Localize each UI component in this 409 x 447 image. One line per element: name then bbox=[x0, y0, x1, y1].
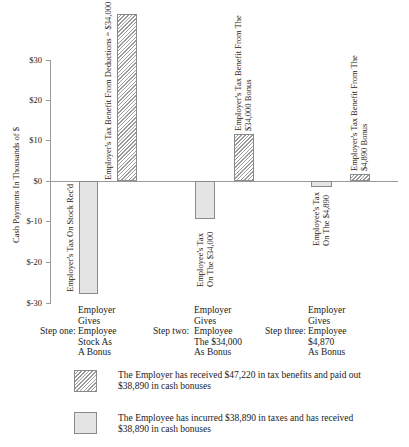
bar-employee-tax-34000 bbox=[195, 181, 215, 219]
step-two-label: Step two: bbox=[153, 326, 189, 337]
step-desc-line: Employee bbox=[78, 326, 117, 337]
bar-label-employer-tax-benefit-34000: Employer's Tax Benefit From The $34,000 … bbox=[234, 15, 253, 131]
y-tick bbox=[46, 221, 50, 222]
bar-employer-tax-benefit-34000 bbox=[234, 134, 254, 181]
y-tick bbox=[46, 181, 50, 182]
bar-label-line: $34,000 Bonus bbox=[244, 15, 254, 131]
bar-employer-tax-on-stock bbox=[79, 181, 98, 294]
step-one-label: Step one: bbox=[40, 326, 76, 337]
y-tick-label: $-30 bbox=[12, 298, 42, 308]
y-tick bbox=[46, 100, 50, 101]
bar-employer-tax-benefit-deductions bbox=[117, 14, 137, 181]
step-desc-line: Gives bbox=[308, 316, 347, 327]
step-desc-line: Gives bbox=[194, 316, 242, 327]
step-desc-line: Gives bbox=[78, 316, 117, 327]
y-tick bbox=[46, 140, 50, 141]
step-desc-line: Employer bbox=[194, 305, 242, 316]
y-tick-label: $-20 bbox=[12, 257, 42, 267]
step-desc-line: The $34,000 bbox=[194, 337, 242, 348]
y-tick-label: $30 bbox=[12, 55, 42, 65]
step-desc-line: Stock As bbox=[78, 337, 117, 348]
step-desc-line: A Bonus bbox=[78, 347, 117, 358]
legend-text-employer: The Employer has received $47,220 in tax… bbox=[118, 370, 378, 392]
step-desc-line: $4,870 bbox=[308, 337, 347, 348]
y-tick-label: $10 bbox=[12, 135, 42, 145]
bar-label-line: $4,890 Bonus bbox=[360, 55, 370, 171]
bar-label-line: On The $4,890 bbox=[322, 192, 332, 246]
bar-label-employee-tax-4890: Employee's Tax On The $4,890 bbox=[312, 192, 331, 246]
bar-label-text: Employer's Tax Benefit From Deductions =… bbox=[104, 4, 114, 180]
step-desc-line: Employer bbox=[78, 305, 117, 316]
legend-swatch-hatched bbox=[74, 370, 97, 392]
y-axis-line bbox=[50, 60, 51, 304]
y-tick bbox=[46, 60, 50, 61]
zero-baseline bbox=[50, 181, 398, 182]
bar-employer-tax-benefit-4890 bbox=[350, 174, 370, 181]
step-one-description: Employer Gives Employee Stock As A Bonus bbox=[78, 305, 117, 358]
y-tick-label: $20 bbox=[12, 95, 42, 105]
step-three-label: Step three: bbox=[265, 326, 306, 337]
step-desc-line: Employer bbox=[308, 305, 347, 316]
legend-swatch-plain bbox=[74, 412, 97, 434]
step-desc-line: Employee bbox=[194, 326, 242, 337]
step-desc-line: As Bonus bbox=[308, 347, 347, 358]
bar-label-employer-tax-benefit-4890: Employer's Tax Benefit From The $4,890 B… bbox=[350, 55, 369, 171]
legend-text-employee: The Employee has incurred $38,890 in tax… bbox=[118, 413, 378, 435]
step-three-description: Employer Gives Employee $4,870 As Bonus bbox=[308, 305, 347, 358]
bar-label-employee-tax-34000: Employee's Tax On The $34,000 bbox=[196, 232, 215, 287]
y-tick-label: $-10 bbox=[12, 216, 42, 226]
y-tick-label: $0 bbox=[12, 176, 42, 186]
bar-label-line: On The $34,000 bbox=[206, 232, 216, 287]
bar-label-employer-tax-on-stock: Employer's Tax On Stock Rec'd bbox=[66, 182, 76, 292]
step-desc-line: Employee bbox=[308, 326, 347, 337]
bar-label-text: Employer's Tax On Stock Rec'd bbox=[66, 182, 76, 292]
bar-label-employer-tax-benefit-deductions: Employer's Tax Benefit From Deductions =… bbox=[104, 4, 114, 180]
step-desc-line: As Bonus bbox=[194, 347, 242, 358]
y-tick bbox=[46, 262, 50, 263]
y-tick bbox=[46, 303, 50, 304]
step-two-description: Employer Gives Employee The $34,000 As B… bbox=[194, 305, 242, 358]
bar-employee-tax-4890 bbox=[311, 181, 332, 187]
